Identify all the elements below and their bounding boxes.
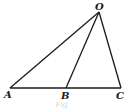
point-label-o: O: [95, 2, 104, 12]
triangle-diagram: O A B C Fig.: [0, 0, 125, 112]
point-label-a: A: [4, 90, 12, 100]
segment-oa: [10, 12, 99, 88]
segment-oc: [99, 12, 121, 88]
segment-ob: [66, 12, 99, 88]
figure-caption: Fig.: [0, 101, 125, 109]
point-label-b: B: [61, 91, 69, 101]
point-label-c: C: [116, 91, 124, 101]
